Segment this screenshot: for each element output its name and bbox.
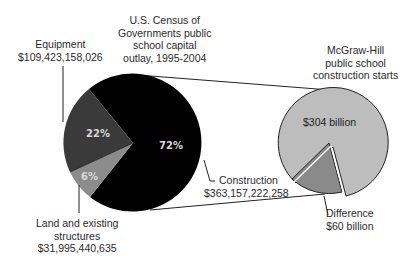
mcgraw-title: McGraw-Hill public school construction s… bbox=[313, 44, 398, 82]
census-title: U.S. Census of Governments public school… bbox=[118, 14, 211, 64]
pct-construction-label: 72% bbox=[159, 140, 183, 151]
difference-label: Difference $60 billion bbox=[326, 207, 374, 232]
equipment-label: Equipment $109,423,158,026 bbox=[18, 38, 103, 63]
construction-label: Construction $363,157,222,258 bbox=[204, 174, 289, 199]
land-label: Land and existing structures $31,995,440… bbox=[36, 217, 118, 255]
mcgraw-value-label: $304 billion bbox=[303, 116, 356, 128]
pct-equipment-label: 22% bbox=[86, 128, 110, 139]
pct-land-label: 6% bbox=[81, 171, 98, 182]
